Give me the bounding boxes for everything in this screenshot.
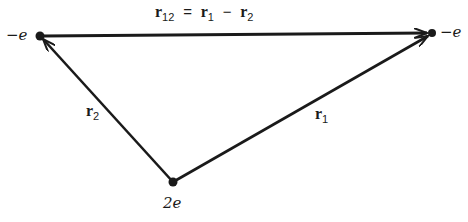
- vector-r12: [43, 33, 427, 36]
- vector-r1: [173, 36, 428, 182]
- charge-dot-left: [36, 32, 45, 41]
- vector-r2: [43, 39, 173, 182]
- r1-vec: r: [201, 3, 208, 20]
- equals-sign: =: [183, 3, 192, 20]
- r1-sub: 1: [208, 11, 214, 23]
- r1-edge-label: r1: [315, 106, 328, 122]
- r2-sub: 2: [247, 11, 253, 23]
- left-charge-label: −e: [6, 28, 27, 43]
- r12-sub: 12: [162, 11, 174, 23]
- vector-diagram: [0, 0, 468, 222]
- charge-dot-right: [428, 29, 436, 37]
- charge-dot-bottom: [169, 178, 178, 187]
- edge-r1-sub: 1: [322, 113, 328, 125]
- right-charge-label: −e: [440, 25, 461, 40]
- r2-edge-label: r2: [86, 103, 99, 119]
- bottom-charge-label: 2e: [163, 196, 181, 211]
- minus-sign: −: [223, 3, 232, 20]
- r12-equation-label: r12 = r1 − r2: [155, 4, 253, 20]
- edge-r2-sub: 2: [93, 110, 99, 122]
